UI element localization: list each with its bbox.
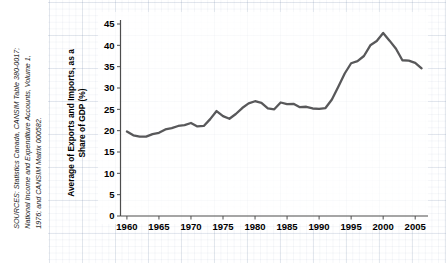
x-tick-label: 1960 xyxy=(116,221,137,232)
x-tick-label: 1995 xyxy=(341,221,363,232)
x-tick-label: 1985 xyxy=(276,221,298,232)
y-tick-label: 40 xyxy=(104,40,115,51)
x-tick-label: 1965 xyxy=(148,221,170,232)
y-tick-label: 30 xyxy=(104,82,115,93)
y-axis-ticks: 051015202530354045 xyxy=(104,18,121,221)
x-tick-label: 2000 xyxy=(373,221,394,232)
y-tick-label: 0 xyxy=(109,210,114,221)
y-tick-label: 25 xyxy=(104,104,115,115)
x-tick-label: 1970 xyxy=(180,221,201,232)
x-tick-label: 1975 xyxy=(212,221,234,232)
line-chart: 051015202530354045 196019651970197519801… xyxy=(0,0,446,263)
y-tick-label: 45 xyxy=(104,18,115,29)
x-tick-label: 2005 xyxy=(405,221,427,232)
y-tick-label: 15 xyxy=(104,146,115,157)
y-tick-label: 10 xyxy=(104,168,115,179)
data-series-line xyxy=(127,33,422,137)
x-tick-label: 1980 xyxy=(244,221,265,232)
chart-figure: SOURCES: Statistics Canada, CANSIM Table… xyxy=(0,0,446,263)
y-tick-label: 20 xyxy=(104,125,115,136)
x-tick-label: 1990 xyxy=(309,221,330,232)
y-tick-label: 35 xyxy=(104,61,115,72)
x-axis-ticks: 1960196519701975198019851990199520002005 xyxy=(116,216,426,232)
y-tick-label: 5 xyxy=(109,189,115,200)
